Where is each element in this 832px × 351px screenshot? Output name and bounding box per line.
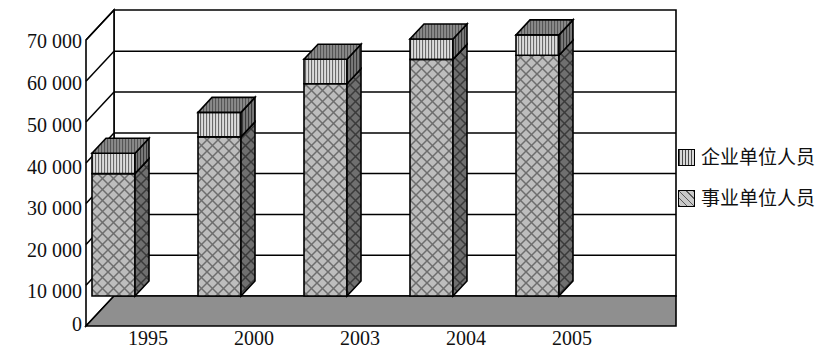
y-axis-tick-label: 50 000 xyxy=(0,115,82,135)
legend-item-qiye: 企业单位人员 xyxy=(678,148,832,167)
y-axis-tick-label: 30 000 xyxy=(0,198,82,218)
column-2004 xyxy=(410,24,467,296)
floor xyxy=(86,296,676,326)
chart-legend: 企业单位人员 事业单位人员 xyxy=(678,148,832,230)
y-axis-tick-label: 20 000 xyxy=(0,240,82,260)
legend-item-shiye: 事业单位人员 xyxy=(678,189,832,208)
vertical-lines-swatch-icon xyxy=(678,149,695,166)
y-axis-tick-label: 60 000 xyxy=(0,73,82,93)
x-axis-tick-label-2005: 2005 xyxy=(527,328,617,348)
y-axis-tick-label: 40 000 xyxy=(0,157,82,177)
column-2003 xyxy=(304,44,361,296)
column-2000 xyxy=(198,97,255,296)
x-axis-tick-label-2004: 2004 xyxy=(421,328,511,348)
y-axis-tick-label: 70 000 xyxy=(0,31,82,51)
crosshatch-swatch-icon xyxy=(678,190,695,207)
y-axis-tick-label: 10 000 xyxy=(0,281,82,301)
legend-item-label: 事业单位人员 xyxy=(701,189,815,208)
chart-svg xyxy=(86,8,686,338)
column-2005 xyxy=(516,20,573,296)
x-axis-tick-label-1995: 1995 xyxy=(103,328,193,348)
column-1995 xyxy=(92,138,149,296)
y-axis-tick-label: 0 xyxy=(0,314,82,334)
x-axis-tick-label-2000: 2000 xyxy=(209,328,299,348)
x-axis-tick-label-2003: 2003 xyxy=(315,328,405,348)
y-axis-tick-labels: 70 000 60 000 50 000 40 000 30 000 20 00… xyxy=(0,0,82,351)
chart-container: 70 000 60 000 50 000 40 000 30 000 20 00… xyxy=(0,0,832,351)
legend-item-label: 企业单位人员 xyxy=(701,148,815,167)
plot-area xyxy=(86,8,676,326)
